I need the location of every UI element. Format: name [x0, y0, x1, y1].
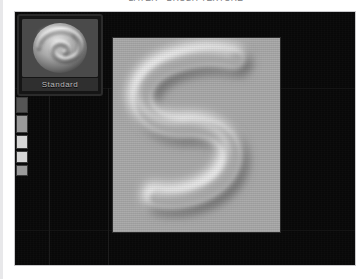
- image-canvas[interactable]: [113, 38, 280, 232]
- page-root: LAYER - BRUSH TEXTURE: [0, 0, 363, 279]
- palette-chip[interactable]: [17, 98, 27, 112]
- palette-chip[interactable]: [17, 136, 27, 148]
- palette-chip[interactable]: [17, 152, 27, 162]
- swirl-spiral-preview-icon[interactable]: [22, 19, 98, 77]
- brush-preset-panel[interactable]: Standard: [17, 14, 103, 96]
- palette-chip[interactable]: [17, 116, 27, 132]
- panel-seam-vertical-left: [49, 88, 50, 265]
- tool-palette-strip[interactable]: [15, 98, 29, 198]
- brush-preset-label: Standard: [22, 78, 98, 91]
- panel-seam-vertical-right: [108, 88, 109, 265]
- application-window: Standard: [15, 12, 355, 265]
- palette-chip[interactable]: [17, 166, 27, 175]
- page-caption: LAYER - BRUSH TEXTURE: [81, 0, 291, 3]
